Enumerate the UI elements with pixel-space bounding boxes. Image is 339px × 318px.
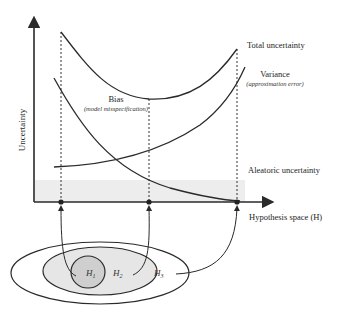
h3-point: [234, 199, 239, 204]
bias-label: Bias: [108, 94, 123, 104]
aleatoric-label: Aleatoric uncertainty: [248, 165, 321, 175]
bias-variance-diagram: Uncertainty Total uncertainty Variance (…: [0, 0, 339, 318]
variance-sublabel: (approximation error): [246, 80, 303, 88]
total-uncertainty-curve: [61, 32, 237, 99]
y-axis-label: Uncertainty: [17, 108, 27, 151]
bias-sublabel: (model misspecification): [84, 105, 148, 113]
variance-label: Variance: [260, 69, 290, 79]
h1-point: [58, 199, 63, 204]
h2-point: [146, 199, 151, 204]
x-axis-label: Hypothesis space (H): [249, 212, 322, 222]
total-uncertainty-label: Total uncertainty: [247, 40, 305, 50]
aleatoric-band: [35, 180, 245, 202]
